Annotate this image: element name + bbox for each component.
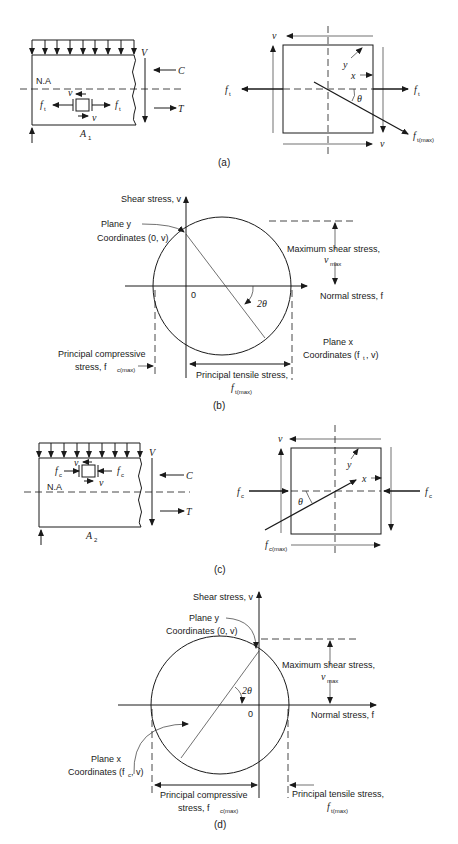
svg-text:A: A — [79, 128, 87, 139]
svg-text:v: v — [99, 477, 104, 488]
svg-text:Shear stress, v: Shear stress, v — [121, 194, 182, 204]
svg-text:Coordinates (0, v): Coordinates (0, v) — [166, 626, 238, 636]
svg-text:v: v — [278, 433, 283, 444]
svg-text:2θ: 2θ — [257, 298, 267, 309]
svg-text:θ: θ — [298, 496, 303, 507]
panel-c: N.A v v f c f c A 2 V C T — [24, 425, 432, 575]
caption-b: (b) — [213, 400, 225, 411]
mohr-circle-d: 0 Shear stress, v Plane y Coordinates (0… — [68, 592, 384, 814]
svg-text:t: t — [44, 106, 46, 112]
svg-text:y: y — [346, 459, 352, 470]
svg-text:V: V — [149, 447, 157, 458]
svg-text:stress, f: stress, f — [75, 362, 107, 372]
svg-text:t: t — [363, 355, 365, 361]
svg-text:Plane x: Plane x — [91, 754, 122, 764]
stress-element — [76, 99, 89, 111]
beam-segment-c: N.A v v f c f c A 2 V C T — [24, 443, 193, 545]
neutral-axis-label: N.A — [36, 76, 51, 86]
svg-text:max: max — [330, 261, 341, 267]
svg-text:v: v — [74, 457, 79, 468]
svg-text:T: T — [186, 506, 193, 517]
svg-text:2: 2 — [94, 537, 98, 543]
figure-canvas: N.A v v f t f t A 1 V C T — [0, 0, 458, 844]
svg-text:Shear stress, v: Shear stress, v — [193, 592, 254, 602]
svg-text:, v): , v) — [131, 767, 144, 777]
svg-text:t: t — [119, 106, 121, 112]
panel-a: N.A v v f t f t A 1 V C T — [20, 26, 434, 168]
svg-text:c: c — [429, 493, 432, 499]
svg-text:c: c — [121, 472, 124, 478]
theta-arc — [306, 491, 312, 503]
svg-text:v: v — [324, 254, 329, 265]
svg-text:x: x — [361, 473, 367, 484]
svg-text:Principal compressive: Principal compressive — [58, 349, 146, 359]
svg-text:Coordinates (f: Coordinates (f — [303, 350, 360, 360]
caption-c: (c) — [214, 564, 226, 575]
svg-text:t: t — [229, 91, 231, 97]
svg-text:v: v — [272, 30, 277, 41]
svg-text:c: c — [241, 493, 244, 499]
theta-arc — [352, 89, 355, 101]
svg-text:2θ: 2θ — [242, 685, 252, 696]
svg-text:θ: θ — [357, 93, 362, 104]
svg-text:Plane y: Plane y — [189, 613, 220, 623]
beam-segment-a: N.A v v f t f t A 1 V C T — [20, 40, 185, 143]
svg-text:c(max): c(max) — [269, 546, 287, 552]
svg-text:c(max): c(max) — [117, 367, 135, 373]
caption-d: (d) — [214, 819, 226, 830]
stress-element-c: v f c f c f c(max) θ y x — [237, 425, 432, 555]
distributed-load-arrows — [39, 443, 140, 457]
svg-text:C: C — [178, 65, 185, 76]
svg-text:t(max): t(max) — [331, 808, 348, 814]
svg-text:0: 0 — [248, 709, 253, 719]
svg-text:Normal stress, f: Normal stress, f — [320, 291, 384, 301]
panel-d: 0 Shear stress, v Plane y Coordinates (0… — [68, 592, 384, 830]
svg-text:V: V — [141, 47, 149, 58]
svg-text:Coordinates (0, v): Coordinates (0, v) — [97, 233, 169, 243]
svg-text:t(max): t(max) — [235, 389, 252, 395]
svg-text:Coordinates (f: Coordinates (f — [68, 767, 125, 777]
panel-b: 0 Shear stress, v Plane y Coordinates (0… — [58, 194, 384, 411]
svg-text:T: T — [178, 103, 185, 114]
svg-text:A: A — [85, 530, 93, 541]
svg-text:c: c — [59, 472, 62, 478]
svg-text:C: C — [186, 470, 193, 481]
distributed-load-arrows — [32, 40, 134, 54]
svg-text:Plane x: Plane x — [323, 337, 354, 347]
svg-text:v: v — [380, 138, 385, 149]
svg-text:Maximum shear stress,: Maximum shear stress, — [287, 244, 380, 254]
svg-text:v: v — [321, 671, 326, 682]
svg-text:v: v — [68, 87, 73, 98]
svg-text:Principal tensile stress,: Principal tensile stress, — [196, 370, 288, 380]
svg-text:Principal tensile stress,: Principal tensile stress, — [292, 789, 384, 799]
svg-text:N.A: N.A — [47, 482, 62, 492]
svg-text:t: t — [418, 91, 420, 97]
svg-text:y: y — [342, 59, 348, 70]
svg-text:Normal stress, f: Normal stress, f — [311, 710, 375, 720]
caption-a: (a) — [218, 157, 230, 168]
svg-text:Plane y: Plane y — [101, 219, 132, 229]
svg-text:stress, f: stress, f — [178, 803, 210, 813]
svg-text:t(max): t(max) — [417, 137, 434, 143]
stress-element-a: v v f t f t f t(max) θ y x — [225, 26, 434, 155]
svg-text:x: x — [350, 70, 356, 81]
svg-text:c(max): c(max) — [220, 808, 238, 814]
mohr-circle-b: 0 Shear stress, v Plane y Coordinates (0… — [58, 194, 384, 395]
svg-text:max: max — [327, 678, 338, 684]
svg-text:v: v — [92, 112, 97, 123]
svg-text:Principal compressive: Principal compressive — [160, 790, 248, 800]
svg-text:Maximum shear stress,: Maximum shear stress, — [282, 660, 375, 670]
svg-text:1: 1 — [88, 135, 92, 141]
svg-text:0: 0 — [191, 290, 196, 300]
svg-text:, v): , v) — [366, 350, 379, 360]
